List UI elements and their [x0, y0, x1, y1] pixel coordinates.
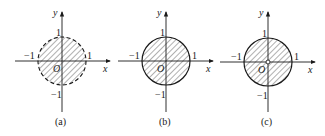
panel-b: x y O 1 −1 1 −1 (b)	[118, 7, 213, 128]
panel-a: x y O 1 −1 1 −1 (a)	[15, 7, 110, 128]
y-tick-pos1-b: 1	[160, 27, 165, 38]
x-label-b: x	[205, 63, 211, 74]
x-tick-neg1-a: −1	[24, 50, 35, 61]
x-tick-neg1-b: −1	[129, 50, 140, 61]
caption-c: (c)	[261, 116, 272, 128]
caption-b: (b)	[159, 116, 171, 128]
y-tick-neg1-b: −1	[155, 89, 166, 100]
x-tick-pos1-b: 1	[192, 50, 197, 61]
y-tick-neg1-c: −1	[257, 90, 268, 101]
y-tick-pos1-c: 1	[262, 28, 267, 39]
x-tick-neg1-c: −1	[231, 51, 242, 62]
origin-label-a: O	[53, 63, 60, 74]
panel-c: x y O 1 −1 1 −1 (c)	[220, 7, 315, 128]
caption-a: (a)	[55, 116, 66, 128]
origin-label-c: O	[258, 64, 265, 75]
y-tick-pos1-a: 1	[56, 27, 61, 38]
origin-label-b: O	[157, 63, 164, 74]
x-label-c: x	[307, 64, 313, 75]
y-label-c: y	[258, 7, 264, 18]
y-label-b: y	[156, 7, 162, 18]
x-tick-pos1-c: 1	[294, 51, 299, 62]
diagram-canvas: x y O 1 −1 1 −1 (a) x y O 1 −1 1 −1 (b) …	[0, 0, 325, 136]
origin-hollow-point-c	[266, 60, 270, 64]
x-label-a: x	[102, 63, 108, 74]
y-label-a: y	[52, 7, 58, 18]
y-tick-neg1-a: −1	[51, 89, 62, 100]
x-tick-pos1-a: 1	[87, 50, 92, 61]
